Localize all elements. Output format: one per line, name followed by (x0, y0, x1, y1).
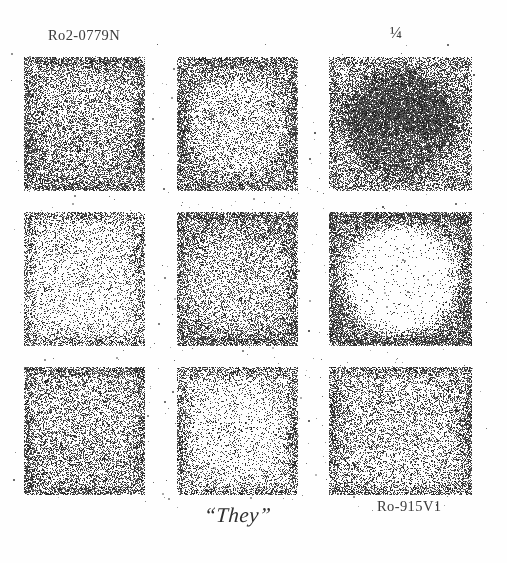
grid-gutter-vertical (298, 57, 330, 191)
grid-gutter-cross (298, 346, 330, 367)
grid-gutter-vertical (145, 212, 177, 346)
label-bottom-center-they: “They” (203, 503, 272, 528)
label-bottom-right: Ro-915V1 (377, 498, 441, 515)
grid-gutter-horizontal (329, 191, 472, 212)
grid-gutter-vertical (298, 367, 330, 495)
stipple-tile (177, 367, 298, 495)
grid-gutter-vertical (145, 367, 177, 495)
stipple-tile (329, 57, 472, 191)
grid-gutter-cross (298, 191, 330, 212)
stipple-tile (24, 57, 145, 191)
label-top-right-fraction: ¼ (390, 24, 402, 42)
stipple-tile (24, 367, 145, 495)
stipple-tile (24, 212, 145, 346)
grid-gutter-horizontal (329, 346, 472, 367)
grid-gutter-cross (145, 191, 177, 212)
grid-gutter-vertical (145, 57, 177, 191)
stipple-tile (329, 212, 472, 346)
grid-gutter-horizontal (177, 191, 298, 212)
grid-gutter-vertical (298, 212, 330, 346)
grid-gutter-cross (145, 346, 177, 367)
stipple-tile (329, 367, 472, 495)
document-page: Ro2-0779N ¼ “They” Ro-915V1 (0, 0, 507, 563)
stipple-tile-grid (24, 57, 472, 495)
stipple-tile (177, 57, 298, 191)
label-top-left: Ro2-0779N (48, 27, 120, 44)
grid-gutter-horizontal (24, 346, 145, 367)
stipple-tile (177, 212, 298, 346)
grid-gutter-horizontal (177, 346, 298, 367)
grid-gutter-horizontal (24, 191, 145, 212)
